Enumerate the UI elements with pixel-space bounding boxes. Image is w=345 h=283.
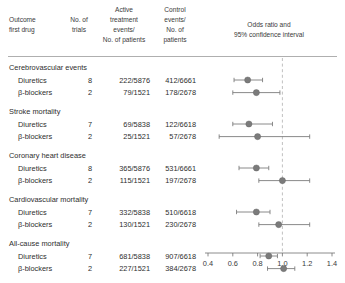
header-plot-line2: 95% confidence interval xyxy=(234,31,305,38)
row-active-events: 115/1521 xyxy=(120,176,150,185)
row-control-events: 531/6661 xyxy=(165,164,196,173)
table-row: Diuretics7332/5838510/6618 xyxy=(18,208,270,217)
row-drug-label: Diuretics xyxy=(18,164,47,173)
header-control-line1: Control xyxy=(164,6,186,13)
header-outcome-line2: first drug xyxy=(9,26,35,34)
axis-tick-label-0: 0.4 xyxy=(203,259,213,268)
row-drug-label: Diuretics xyxy=(18,120,47,129)
row-active-events: 25/1521 xyxy=(123,132,150,141)
group-label-2: Coronary heart disease xyxy=(9,151,86,160)
row-control-events: 122/6618 xyxy=(165,120,196,129)
odds-ratio-marker xyxy=(253,90,259,96)
group-label-4: All-cause mortality xyxy=(9,239,70,248)
odds-ratio-marker xyxy=(276,222,282,228)
header-active-line4: No. of patients xyxy=(103,36,146,44)
axis-tick-label-2: 0.8 xyxy=(252,259,262,268)
table-row: Diuretics769/5838122/6618 xyxy=(18,120,272,129)
row-control-events: 230/2678 xyxy=(165,220,196,229)
header-active-line3: events/ xyxy=(113,26,134,33)
row-active-events: 222/5876 xyxy=(119,76,150,85)
row-trials-value: 7 xyxy=(88,252,92,261)
row-trials-value: 8 xyxy=(88,76,92,85)
row-control-events: 197/2678 xyxy=(165,176,196,185)
row-trials-value: 2 xyxy=(88,264,92,273)
table-row: β-blockers225/152157/2678 xyxy=(18,132,310,141)
row-active-events: 130/1521 xyxy=(119,220,150,229)
header-control-line3: No. of xyxy=(166,26,184,33)
header-plot-line1: Odds ratio and xyxy=(247,21,291,28)
row-control-events: 510/6618 xyxy=(165,208,196,217)
odds-ratio-marker xyxy=(279,178,285,184)
row-trials-value: 7 xyxy=(88,120,92,129)
odds-ratio-marker xyxy=(255,134,261,140)
forest-plot: Outcome first drug No. of trials Active … xyxy=(0,0,345,283)
row-active-events: 69/5838 xyxy=(123,120,150,129)
header-active-line1: Active xyxy=(115,6,133,13)
axis-tick-label-4: 1.2 xyxy=(302,259,312,268)
header-control-line4: patients xyxy=(163,36,187,44)
row-drug-label: Diuretics xyxy=(18,252,47,261)
row-control-events: 412/6661 xyxy=(165,76,196,85)
axis-tick-label-1: 0.6 xyxy=(228,259,238,268)
row-control-events: 384/2678 xyxy=(165,264,196,273)
header-control-line2: events/ xyxy=(164,16,185,23)
table-row: Diuretics8365/5876531/6661 xyxy=(18,164,269,173)
row-drug-label: β-blockers xyxy=(18,264,53,273)
header-active-line2: treatment xyxy=(110,16,138,23)
row-active-events: 681/5838 xyxy=(119,252,150,261)
group-label-3: Cardiovascular mortality xyxy=(9,195,89,204)
table-row: β-blockers2130/1521230/2678 xyxy=(18,220,310,229)
row-drug-label: β-blockers xyxy=(18,176,53,185)
header-trials-line1: No. of xyxy=(70,16,88,23)
group-label-1: Stroke mortality xyxy=(9,107,61,116)
axis-tick-label-5: 1.4 xyxy=(327,259,337,268)
row-active-events: 332/5838 xyxy=(119,208,150,217)
table-row: β-blockers2115/1521197/2678 xyxy=(18,176,310,185)
row-active-events: 365/5876 xyxy=(119,164,150,173)
row-drug-label: β-blockers xyxy=(18,88,53,97)
table-header: Outcome first drug No. of trials Active … xyxy=(9,6,305,44)
row-control-events: 178/2678 xyxy=(165,88,196,97)
odds-ratio-marker xyxy=(266,253,272,259)
header-trials-line2: trials xyxy=(72,26,87,33)
odds-ratio-marker xyxy=(246,121,252,127)
row-trials-value: 2 xyxy=(88,132,92,141)
row-trials-value: 7 xyxy=(88,208,92,217)
odds-ratio-marker xyxy=(253,165,259,171)
table-row: Diuretics8222/5876412/6661 xyxy=(18,76,263,85)
group-label-0: Cerebrovascular events xyxy=(9,63,87,72)
row-trials-value: 2 xyxy=(88,220,92,229)
row-trials-value: 2 xyxy=(88,88,92,97)
row-trials-value: 2 xyxy=(88,176,92,185)
row-drug-label: β-blockers xyxy=(18,220,53,229)
row-active-events: 227/1521 xyxy=(119,264,150,273)
row-drug-label: Diuretics xyxy=(18,76,47,85)
row-active-events: 79/1521 xyxy=(123,88,150,97)
odds-ratio-marker xyxy=(245,77,251,83)
header-outcome-line1: Outcome xyxy=(9,16,36,23)
axis-tick-label-3: 1.0 xyxy=(277,259,287,268)
row-trials-value: 8 xyxy=(88,164,92,173)
row-control-events: 57/2678 xyxy=(169,132,196,141)
odds-ratio-marker xyxy=(253,209,259,215)
row-drug-label: β-blockers xyxy=(18,132,53,141)
row-drug-label: Diuretics xyxy=(18,208,47,217)
row-control-events: 907/6618 xyxy=(165,252,196,261)
data-rows-layer: Cerebrovascular eventsDiuretics8222/5876… xyxy=(9,63,310,273)
table-row: β-blockers279/1521178/2678 xyxy=(18,88,280,97)
